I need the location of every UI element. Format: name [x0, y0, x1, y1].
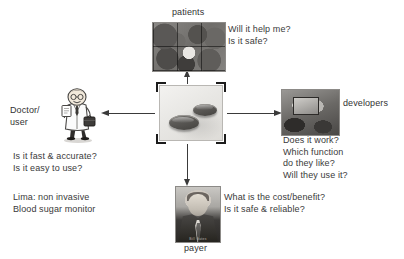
label-developers: developers — [343, 98, 388, 110]
label-doctor-user: Doctor/ user — [10, 105, 40, 128]
questions-patients: Will it help me? Is it safe? — [228, 24, 291, 47]
photo-credit: Bill Gates — [176, 237, 220, 241]
arrow-shaft — [187, 76, 188, 84]
selection-handle-bottom-right[interactable] — [216, 134, 226, 144]
doctor-clipart-icon — [54, 86, 100, 144]
questions-doctor-user: Is it fast & accurate? Is it easy to use… — [13, 151, 97, 174]
left-arrow-to-doctor — [101, 110, 155, 117]
label-patients: patients — [172, 7, 204, 19]
questions-developers: Does it work? Which function do they lik… — [283, 135, 348, 181]
arrow-shaft — [108, 113, 155, 114]
down-arrow-to-payer — [184, 144, 191, 186]
product-note: Lima: non invasive Blood sugar monitor — [13, 192, 95, 215]
device-lozenge-large — [169, 115, 199, 130]
selection-handle-top-right[interactable] — [216, 82, 226, 92]
arrow-shaft — [187, 144, 188, 180]
arrow-shaft — [227, 113, 274, 114]
device-lozenge-small — [193, 104, 217, 116]
center-node-device[interactable] — [156, 82, 226, 144]
arrowhead-down-icon — [184, 179, 190, 186]
right-arrow-to-developers — [227, 110, 282, 117]
label-payer: payer — [184, 243, 207, 255]
portrait-face — [188, 194, 208, 216]
selection-handle-bottom-left[interactable] — [156, 134, 166, 144]
device-photo[interactable] — [159, 85, 223, 141]
developers-photo — [281, 89, 340, 136]
diagram-canvas: patients Will it help me? Is it safe? — [0, 0, 404, 259]
patients-collage-photo — [152, 22, 226, 72]
payer-portrait-photo: Bill Gates — [175, 186, 221, 243]
selection-handle-top-left[interactable] — [156, 82, 166, 92]
questions-payer: What is the cost/benefit? Is it safe & r… — [224, 192, 325, 215]
up-arrow-to-patients — [184, 70, 191, 84]
monitor-screen — [293, 97, 319, 115]
